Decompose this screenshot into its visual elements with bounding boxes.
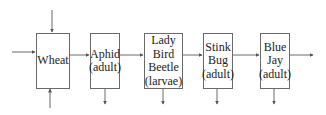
node-blue-jay: Blue Jay (adult) bbox=[260, 33, 290, 89]
node-wheat-label: Wheat bbox=[37, 54, 68, 68]
food-chain-diagram: Wheat Aphid (adult) Lady Bird Beetle (la… bbox=[0, 0, 326, 115]
node-blue-jay-label: Blue Jay (adult) bbox=[259, 41, 291, 82]
node-ladybird-beetle: Lady Bird Beetle (larvae) bbox=[144, 33, 183, 89]
node-stink-bug-label: Stink Bug (adult) bbox=[202, 41, 234, 82]
node-ladybird-beetle-label: Lady Bird Beetle (larvae) bbox=[145, 34, 182, 88]
node-aphid-label: Aphid (adult) bbox=[89, 48, 121, 75]
node-stink-bug: Stink Bug (adult) bbox=[203, 33, 233, 89]
node-wheat: Wheat bbox=[36, 33, 70, 89]
node-aphid: Aphid (adult) bbox=[90, 33, 120, 89]
